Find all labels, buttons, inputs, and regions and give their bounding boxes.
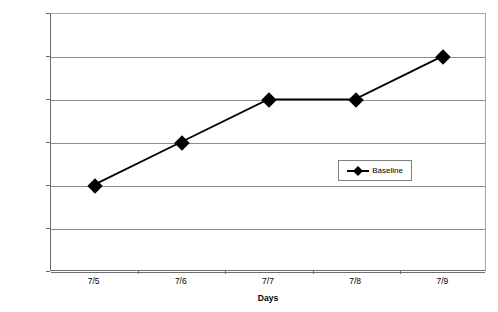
line-chart: % of intervals in which aggression occur… [0,0,498,312]
legend-item-baseline-label: Baseline [372,167,403,175]
gridline-0 [51,272,485,273]
x-tick-label-7-6: 7/6 [175,277,187,286]
x-tick-label-7-9: 7/9 [436,277,448,286]
data-point-7-8[interactable] [348,92,364,108]
x-tick-mark-2 [225,270,226,274]
data-point-7-5[interactable] [87,178,103,194]
x-tick-label-7-5: 7/5 [88,277,100,286]
x-tick-mark-4 [400,270,401,274]
y-tick-mark-0 [46,271,50,272]
data-point-7-7[interactable] [261,92,277,108]
chart-legend[interactable]: Baseline [338,160,412,181]
data-point-7-6[interactable] [174,135,190,151]
x-tick-mark-1 [138,270,139,274]
x-tick-label-7-8: 7/8 [349,277,361,286]
plot-area [50,13,486,271]
series-baseline-markers [51,14,485,270]
y-axis-title: % of intervals in which aggression occur… [4,0,18,41]
legend-marker-diamond-icon [347,165,369,176]
x-axis-title: Days [50,294,486,303]
x-tick-label-7-7: 7/7 [262,277,274,286]
data-point-7-9[interactable] [436,49,452,65]
x-tick-mark-3 [313,270,314,274]
